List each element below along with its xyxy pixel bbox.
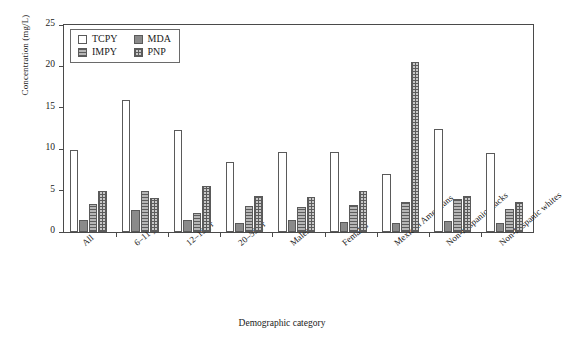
y-tick-mark (59, 25, 63, 26)
legend-entry-pnp: PNP (134, 47, 171, 57)
y-tick-mark (59, 107, 63, 108)
bar-mda-2 (183, 220, 192, 232)
bar-impy-5 (349, 205, 358, 232)
legend-swatch-tcpy-icon (78, 35, 87, 44)
bar-mda-4 (288, 220, 297, 232)
bar-tcpy-7 (434, 129, 443, 232)
bar-tcpy-4 (278, 152, 287, 232)
bar-pnp-0 (98, 191, 107, 232)
y-tick-label: 10 (46, 142, 56, 152)
bar-tcpy-0 (70, 150, 79, 232)
bar-impy-4 (297, 207, 306, 232)
bar-pnp-6 (411, 62, 420, 232)
x-tick-mark (272, 233, 273, 237)
x-tick-mark (481, 233, 482, 237)
bar-pnp-1 (150, 198, 159, 232)
bar-tcpy-1 (122, 100, 131, 232)
legend-label: IMPY (92, 47, 117, 57)
chart-figure: Concentration (mg/L) 0510152025 All6–11 … (0, 0, 564, 342)
x-tick-mark (220, 233, 221, 237)
legend-entry-mda: MDA (134, 34, 171, 44)
y-tick-mark (59, 66, 63, 67)
y-axis-title: Concentration (mg/L) (20, 0, 30, 120)
x-tick-mark (116, 233, 117, 237)
bar-pnp-8 (515, 202, 524, 232)
legend-swatch-impy-icon (78, 48, 87, 57)
y-tick-mark (59, 149, 63, 150)
y-tick-mark (59, 190, 63, 191)
x-axis-title: Demographic category (0, 318, 564, 328)
bar-mda-1 (131, 210, 140, 232)
y-tick-label: 0 (50, 225, 55, 235)
legend-label: MDA (148, 34, 171, 44)
x-axis-label: All (80, 232, 95, 247)
y-tick-label: 25 (46, 18, 56, 28)
legend-entry-impy: IMPY (78, 47, 118, 57)
legend-label: TCPY (92, 34, 118, 44)
bar-tcpy-8 (486, 153, 495, 232)
x-tick-mark (325, 233, 326, 237)
y-tick-label: 20 (46, 59, 56, 69)
bar-impy-7 (453, 199, 462, 232)
bar-impy-8 (505, 209, 514, 232)
bar-pnp-3 (254, 196, 263, 232)
legend-swatch-mda-icon (134, 35, 143, 44)
bar-impy-3 (245, 206, 254, 232)
bar-impy-0 (89, 204, 98, 232)
y-tick-mark (59, 232, 63, 233)
bar-tcpy-6 (382, 174, 391, 232)
chart-legend: TCPYMDAIMPYPNP (70, 29, 180, 63)
bar-mda-8 (496, 223, 505, 232)
bar-pnp-7 (463, 196, 472, 232)
bar-impy-6 (401, 202, 410, 232)
y-tick-label: 5 (50, 184, 55, 194)
bar-pnp-2 (202, 186, 211, 232)
x-tick-mark (429, 233, 430, 237)
bar-impy-1 (141, 191, 150, 232)
bar-tcpy-3 (226, 162, 235, 232)
bar-mda-5 (340, 222, 349, 232)
legend-entry-tcpy: TCPY (78, 34, 118, 44)
bar-mda-6 (392, 223, 401, 232)
bar-mda-7 (444, 221, 453, 232)
bar-tcpy-5 (330, 152, 339, 232)
y-tick-label: 15 (46, 101, 56, 111)
bar-mda-3 (235, 223, 244, 232)
legend-label: PNP (148, 47, 166, 57)
bar-mda-0 (79, 220, 88, 232)
x-tick-mark (168, 233, 169, 237)
x-tick-mark (377, 233, 378, 237)
bar-tcpy-2 (174, 130, 183, 232)
legend-swatch-pnp-icon (134, 48, 143, 57)
bar-pnp-4 (307, 197, 316, 232)
bar-pnp-5 (359, 191, 368, 232)
bar-impy-2 (193, 213, 202, 232)
